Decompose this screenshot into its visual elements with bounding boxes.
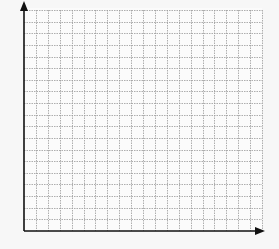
grid-lines: [24, 10, 263, 231]
y-axis-arrow-icon: [20, 1, 28, 11]
coordinate-grid: [0, 0, 279, 249]
x-axis-arrow-icon: [255, 227, 265, 235]
